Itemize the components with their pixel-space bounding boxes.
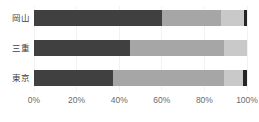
- x-axis-tick-label: 40%: [111, 93, 128, 107]
- x-axis-tick-label: 80%: [196, 93, 213, 107]
- bar-segment: [162, 10, 222, 26]
- bar-segment: [34, 10, 162, 26]
- x-axis-tick-label: 60%: [153, 93, 170, 107]
- bar-segment: [244, 10, 247, 26]
- stacked-bar-chart: 岡山 三重 東京 0%20%40%60%80%100%: [0, 0, 259, 122]
- category-label-okayama: 岡山: [0, 10, 30, 26]
- bar-segment: [243, 70, 247, 86]
- table-row: [34, 10, 247, 26]
- category-label-tokyo: 東京: [0, 70, 30, 86]
- bar-segment: [113, 70, 224, 86]
- category-label-mie: 三重: [0, 40, 30, 56]
- bar-segment: [224, 40, 247, 56]
- plot-area: [34, 6, 247, 91]
- table-row: [34, 70, 247, 86]
- bar-segment: [34, 40, 130, 56]
- table-row: [34, 40, 247, 56]
- bar-segment: [221, 10, 243, 26]
- bar-segment: [34, 70, 113, 86]
- x-axis: 0%20%40%60%80%100%: [34, 93, 247, 107]
- x-axis-tick-label: 0%: [28, 93, 40, 107]
- x-axis-tick-label: 20%: [68, 93, 85, 107]
- x-axis-tick-label: 100%: [236, 93, 258, 107]
- bar-segment: [130, 40, 224, 56]
- bar-segment: [224, 70, 243, 86]
